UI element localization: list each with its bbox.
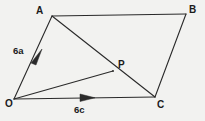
- geometry-figure: A B C O P 6a 6c: [0, 0, 205, 121]
- segment-OP: [14, 71, 113, 99]
- arrowhead-oc-icon: [80, 94, 95, 102]
- segment-AC: [52, 16, 155, 97]
- vertex-label-o: O: [5, 99, 13, 109]
- vertex-label-p: P: [118, 60, 125, 70]
- vertex-label-c: C: [157, 100, 164, 110]
- point-p-marker: [112, 70, 114, 72]
- segment-AB: [52, 14, 186, 16]
- vector-label-6a: 6a: [13, 46, 24, 56]
- segment-BC: [155, 14, 186, 97]
- vertex-label-a: A: [36, 6, 43, 16]
- vector-label-6c: 6c: [74, 105, 85, 115]
- vertex-label-b: B: [189, 5, 196, 15]
- geometry-diagram: [0, 0, 205, 121]
- segment-OA: [14, 16, 52, 99]
